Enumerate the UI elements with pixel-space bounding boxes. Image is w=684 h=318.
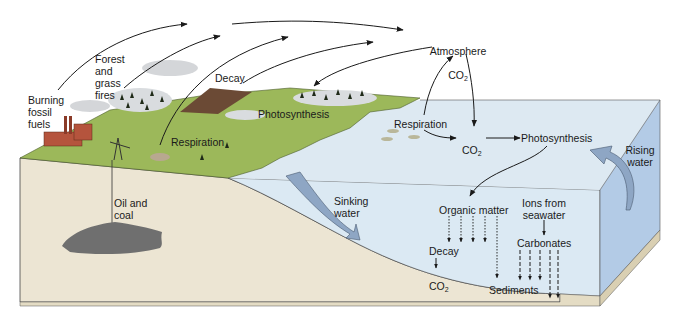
label-ocean-co2-text: CO [462, 144, 478, 156]
label-respiration-ocean: Respiration [394, 118, 447, 130]
arrow-decay-to-atmosphere [243, 42, 373, 83]
label-respiration-land: Respiration [171, 136, 224, 148]
label-decay-land: Decay [215, 72, 245, 84]
carbon-cycle-diagram [0, 0, 684, 318]
label-photosynthesis-ocean: Photosynthesis [521, 132, 592, 144]
label-atmosphere-co2: CO [448, 69, 464, 81]
arrow-top-to-atmosphere [232, 21, 403, 30]
label-sinking-water: Sinking water [334, 195, 368, 219]
label-burning-fossil-fuels: Burning fossil fuels [28, 94, 64, 130]
label-atmosphere: Atmosphere CO2 [425, 33, 491, 85]
label-rising-water: Rising water [620, 144, 660, 168]
label-ocean-co2: CO2 [462, 132, 482, 160]
arrow-atmosphere-to-photosynthesis-land [314, 47, 432, 86]
subscript-2: 2 [478, 150, 482, 157]
label-oil-and-coal: Oil and coal [114, 197, 147, 221]
label-sediments: Sediments [489, 284, 539, 296]
label-ions-from-seawater: Ions from seawater [518, 197, 570, 221]
label-organic-matter: Organic matter [439, 204, 508, 216]
label-forest-grass-fires: Forest and grass fires [95, 53, 125, 101]
label-decay-ocean: Decay [429, 245, 459, 257]
label-atmosphere-text: Atmosphere [430, 45, 487, 57]
subscript-2: 2 [464, 75, 468, 82]
label-deep-co2: CO2 [429, 268, 449, 296]
label-deep-co2-text: CO [429, 280, 445, 292]
label-photosynthesis-land: Photosynthesis [258, 108, 329, 120]
smoke-factory [70, 100, 110, 112]
subscript-2: 2 [445, 286, 449, 293]
animal-icon [150, 153, 170, 161]
label-carbonates: Carbonates [517, 237, 571, 249]
forest-patch-photosynthesis [293, 90, 377, 106]
